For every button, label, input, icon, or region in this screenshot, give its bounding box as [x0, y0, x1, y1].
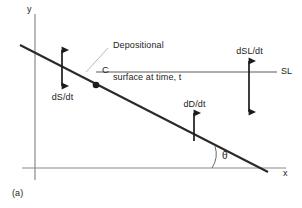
sea-level-label: SL [281, 66, 292, 77]
theta-angle-label: θ [222, 150, 228, 162]
point-c-label: C [102, 64, 109, 75]
theta-angle-arc [212, 146, 216, 168]
callout-line-2: surface at time, t [113, 72, 181, 83]
y-axis-label: y [27, 4, 32, 15]
depositional-surface-callout: Depositional surface at time, t [113, 19, 181, 104]
callout-line-1: Depositional [113, 40, 181, 51]
point-c-marker [93, 82, 100, 89]
x-axis-label: x [283, 168, 288, 179]
dd-dt-label: dD/dt [176, 99, 213, 110]
dsl-dt-label: dSL/dt [228, 46, 271, 57]
figure-caption: (a) [12, 188, 23, 199]
figure-panel-a: y x Depositional surface at time, t C SL… [0, 0, 302, 208]
ds-dt-label: dS/dt [45, 92, 80, 103]
